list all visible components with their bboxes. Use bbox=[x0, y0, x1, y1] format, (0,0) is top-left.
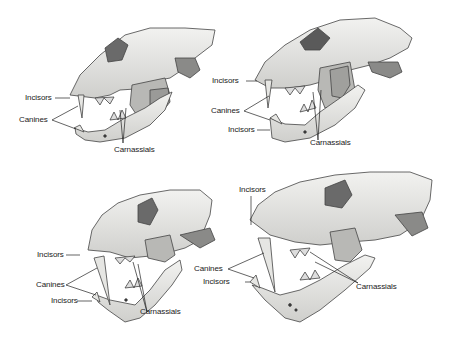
label-canines: Canines bbox=[19, 116, 48, 124]
label-incisors-lower: Incisors bbox=[51, 297, 78, 305]
label-incisors-upper: Incisors bbox=[37, 251, 64, 259]
label-incisors-lower: Incisors bbox=[228, 126, 255, 134]
label-carnassials: Carnassials bbox=[114, 146, 155, 154]
skull-bottom-left bbox=[88, 190, 215, 322]
skull-bottom-right bbox=[250, 172, 432, 322]
label-incisors-upper: Incisors bbox=[212, 77, 239, 85]
label-incisors-lower: Incisors bbox=[203, 278, 230, 286]
label-incisors-upper: Incisors bbox=[25, 94, 52, 102]
label-canines: Canines bbox=[194, 265, 223, 273]
label-carnassials: Carnassials bbox=[310, 139, 351, 147]
label-canines: Canines bbox=[36, 281, 65, 289]
label-canines: Canines bbox=[211, 107, 240, 115]
label-carnassials: Carnassials bbox=[356, 283, 397, 291]
label-carnassials: Carnassials bbox=[140, 308, 181, 316]
skull-top-right bbox=[255, 18, 412, 142]
skull-figure: Incisors Canines Carnassials Incisors Ca… bbox=[0, 0, 457, 349]
skull-top-left bbox=[70, 28, 215, 142]
label-incisors-upper: Incisors bbox=[239, 186, 266, 194]
